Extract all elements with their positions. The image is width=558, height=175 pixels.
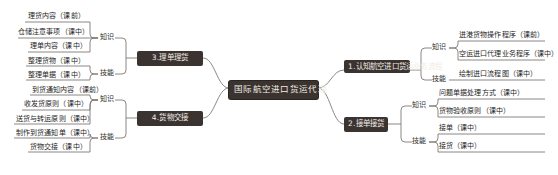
link-b1-k-leaf1	[449, 41, 545, 48]
leaf-label: 货物验收原则（课中）	[439, 107, 510, 115]
category-text: 技能	[432, 75, 446, 83]
link-root-branch4	[203, 88, 229, 118]
leaf-label: 整理货物（课中）	[28, 57, 85, 65]
category-label-b4-knowledge[interactable]: 知识	[100, 95, 114, 104]
category-text: 知识	[100, 95, 114, 103]
link-b4-技能	[115, 118, 126, 138]
leaf-label: 接货（课中）	[439, 142, 482, 150]
category-text: 技能	[100, 133, 114, 141]
leaf-label: 理单内容（课中）	[30, 42, 87, 50]
leaf-label: 接单（课中）	[439, 124, 482, 132]
leaf-node-b4-s1[interactable]: 制作到货通知单（课中）	[13, 129, 97, 139]
link-b2-知识	[401, 106, 412, 124]
leaf-node-b3-k2[interactable]: 仓储注意事项（课中）	[15, 28, 92, 38]
link-b2-s-leaf1	[429, 134, 545, 142]
leaf-label: 空运进口代理业务程序（课中）	[459, 50, 558, 58]
leaf-label: 送货与转运原则（课中）	[16, 115, 94, 123]
link-b3-技能	[115, 58, 126, 74]
leaf-node-b1-k2[interactable]: 空运进口代理业务程序（课中）	[456, 50, 558, 60]
category-text: 技能	[100, 69, 114, 77]
leaf-node-b3-s2[interactable]: 整理单据（课中）	[25, 71, 88, 81]
leaf-node-b4-k3[interactable]: 送货与转运原则（课中）	[13, 115, 97, 125]
leaf-label: 收发货原则（课中）	[24, 100, 88, 108]
category-label-b3-skill[interactable]: 技能	[100, 69, 114, 78]
category-label-b4-skill[interactable]: 技能	[100, 133, 114, 142]
branch-node-2-label: 2.接单接货	[348, 119, 384, 128]
link-b3-知识	[115, 38, 126, 58]
link-b2-技能	[401, 124, 412, 142]
branch-node-2[interactable]: 2.接单接货	[344, 117, 388, 132]
branch-node-4-label: 4.货物交接	[152, 113, 188, 122]
link-b2-k-leaf1	[429, 99, 545, 106]
leaf-node-b4-k1[interactable]: 到货通知内容（课前）	[29, 86, 106, 96]
leaf-label: 绘制进口流程图（课中）	[459, 70, 537, 78]
leaf-label: 问题单据处理方式（课中）	[439, 89, 524, 97]
leaf-label: 到货通知内容（课前）	[32, 86, 103, 94]
leaf-node-b1-k1[interactable]: 进港货物操作程序（课前）	[456, 31, 547, 41]
category-text: 知识	[432, 43, 446, 51]
branch-node-1-label: 1.认知航空进口货运业务流程	[348, 62, 442, 71]
branch-node-3[interactable]: 3.理单理货	[137, 51, 203, 66]
branch-node-3-label: 3.理单理货	[152, 53, 188, 62]
category-label-b3-knowledge[interactable]: 知识	[100, 33, 114, 42]
branch-node-4[interactable]: 4.货物交接	[137, 111, 203, 126]
leaf-node-b4-s2[interactable]: 货物交接（课中）	[27, 143, 90, 153]
root-node-label: 国际航空进口货运代理	[234, 84, 327, 94]
leaf-label: 制作到货通知单（课中）	[16, 129, 94, 137]
leaf-node-b2-k2[interactable]: 货物验收原则（课中）	[436, 107, 513, 117]
category-text: 知识	[412, 101, 426, 109]
category-label-b2-knowledge[interactable]: 知识	[412, 101, 426, 110]
leaf-label: 进港货物操作程序（课前）	[459, 31, 544, 39]
branch-node-1[interactable]: 1.认知航空进口货运业务流程	[344, 60, 410, 73]
link-b4-知识	[115, 100, 126, 118]
category-label-b1-knowledge[interactable]: 知识	[432, 43, 446, 52]
leaf-node-b4-k2[interactable]: 收发货原则（课中）	[21, 100, 91, 110]
link-root-branch3	[203, 58, 229, 88]
category-text: 知识	[100, 33, 114, 41]
category-label-b1-skill[interactable]: 技能	[432, 75, 446, 84]
leaf-label: 货物交接（课中）	[30, 143, 87, 151]
leaf-node-b3-k3[interactable]: 理单内容（课中）	[27, 42, 90, 52]
leaf-label: 整理单据（课中）	[28, 71, 85, 79]
category-text: 技能	[412, 137, 426, 145]
leaf-node-b3-k1[interactable]: 理货内容（课前）	[25, 12, 88, 22]
root-node[interactable]: 国际航空进口货运代理	[229, 81, 318, 99]
leaf-node-b2-k1[interactable]: 问题单据处理方式（课中）	[436, 89, 527, 99]
leaf-node-b2-s1[interactable]: 接单（课中）	[436, 124, 485, 134]
link-b1-技能	[421, 70, 432, 80]
leaf-label: 理货内容（课前）	[28, 12, 85, 20]
leaf-node-b3-s1[interactable]: 整理货物（课中）	[25, 57, 88, 67]
leaf-node-b2-s2[interactable]: 接货（课中）	[436, 142, 485, 152]
leaf-node-b1-s1[interactable]: 绘制进口流程图（课中）	[456, 70, 540, 80]
leaf-label: 仓储注意事项（课中）	[18, 28, 89, 36]
category-label-b2-skill[interactable]: 技能	[412, 137, 426, 146]
